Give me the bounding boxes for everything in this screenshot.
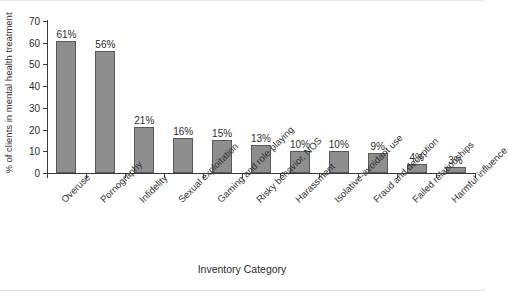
y-axis-tick-mark	[43, 108, 47, 109]
y-axis-title: % of clients in mental health treatment	[2, 5, 16, 181]
y-axis-tick-mark	[43, 64, 47, 65]
x-axis-title: Inventory Category	[0, 263, 484, 275]
y-axis-tick-label: 60	[29, 37, 40, 48]
y-axis-tick-mark	[43, 86, 47, 87]
y-axis-tick-mark	[43, 130, 47, 131]
y-axis-tick-mark	[43, 43, 47, 44]
y-axis-tick-mark	[43, 151, 47, 152]
y-axis-tick-label: 30	[29, 102, 40, 113]
bar-value-label: 56%	[95, 39, 115, 50]
y-axis-tick-label: 20	[29, 124, 40, 135]
bar-value-label: 16%	[173, 126, 193, 137]
bar-value-label: 21%	[134, 115, 154, 126]
x-axis-category-label: Infidelity	[137, 172, 169, 204]
y-axis-tick-label: 40	[29, 81, 40, 92]
plot-area: 010203040506070 61%56%21%16%15%13%10%10%…	[47, 21, 475, 173]
y-axis-tick-label: 70	[29, 16, 40, 27]
x-axis-tick-mark	[47, 173, 48, 178]
bar: 16%	[173, 138, 193, 173]
y-axis-tick-label: 50	[29, 59, 40, 70]
bar-value-label: 15%	[212, 128, 232, 139]
bar-value-label: 61%	[56, 29, 76, 40]
bar: 56%	[95, 51, 115, 173]
x-axis-line	[47, 173, 476, 174]
bar: 61%	[56, 41, 76, 173]
x-axis-category-label: Overuse	[59, 172, 92, 205]
y-axis-tick-label: 0	[34, 168, 40, 179]
y-axis-tick-mark	[43, 21, 47, 22]
y-axis-tick-label: 10	[29, 146, 40, 157]
bar-value-label: 10%	[329, 139, 349, 150]
